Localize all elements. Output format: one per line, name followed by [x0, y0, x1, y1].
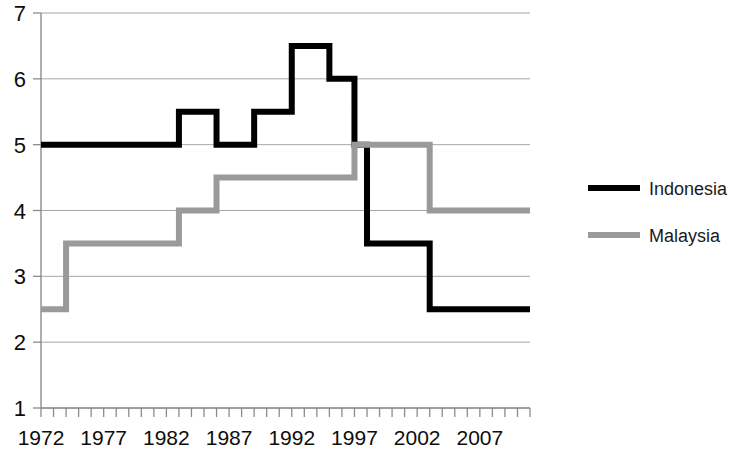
x-axis-tick-label: 1987	[206, 426, 253, 449]
x-axis-tick-label: 2002	[394, 426, 441, 449]
y-axis-tick-label: 4	[14, 199, 26, 224]
x-axis-tick-label: 1982	[143, 426, 190, 449]
legend-label-malaysia: Malaysia	[649, 226, 721, 246]
y-axis-tick-label: 2	[14, 330, 26, 355]
x-axis-tick-label: 2007	[456, 426, 503, 449]
y-axis-tick-label: 5	[14, 133, 26, 158]
x-axis-tick-label: 1992	[268, 426, 315, 449]
x-axis-tick-label: 1972	[18, 426, 65, 449]
x-axis-tick-label: 1997	[331, 426, 378, 449]
chart-figure: 1234567 19721977198219871992199720022007…	[0, 0, 734, 455]
y-axis-tick-label: 3	[14, 264, 26, 289]
legend-label-indonesia: Indonesia	[649, 179, 728, 199]
y-axis-tick-label: 7	[14, 1, 26, 26]
line-chart: 1234567 19721977198219871992199720022007…	[0, 0, 734, 455]
x-axis-tick-label: 1977	[80, 426, 127, 449]
y-axis-tick-label: 1	[14, 396, 26, 421]
y-axis-tick-label: 6	[14, 67, 26, 92]
